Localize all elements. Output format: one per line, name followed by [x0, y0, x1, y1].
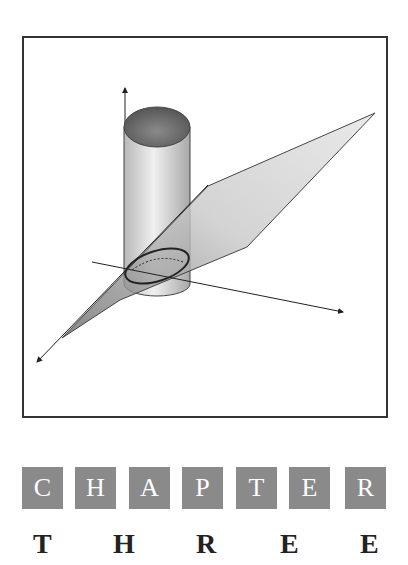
chapter-letter-box: E	[289, 467, 330, 509]
chapter-letter-box: C	[22, 467, 63, 509]
number-letter: H	[113, 528, 135, 560]
number-letter: T	[33, 528, 52, 560]
chapter-label: C H A P T E R	[0, 467, 408, 510]
slanted-plane	[62, 113, 375, 338]
chapter-letter-box: A	[129, 467, 170, 509]
chapter-letter-box: R	[345, 467, 386, 509]
chapter-letter-box: P	[182, 467, 223, 509]
number-letter: R	[196, 528, 216, 560]
number-letter: E	[360, 528, 379, 560]
cylinder-top	[124, 107, 190, 147]
number-letter: E	[280, 528, 299, 560]
chapter-number: T H R E E	[0, 528, 408, 560]
cylinder-plane-figure	[0, 0, 408, 430]
chapter-letter-box: H	[75, 467, 116, 509]
chapter-letter-box: T	[236, 467, 277, 509]
